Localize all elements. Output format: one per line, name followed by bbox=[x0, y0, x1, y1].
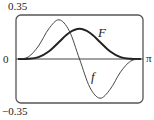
curve-F bbox=[18, 29, 141, 59]
y-tick-label-zero: 0 bbox=[3, 53, 9, 65]
curve-label-F: F bbox=[97, 25, 107, 40]
x-tick-label-pi: π bbox=[146, 52, 152, 64]
y-tick-label-top: 0.35 bbox=[8, 0, 28, 12]
curve-label-f: f bbox=[91, 69, 97, 84]
chart: 0.35 0 −0.35 π F f bbox=[0, 0, 154, 120]
y-tick-label-bottom: −0.35 bbox=[2, 105, 28, 117]
